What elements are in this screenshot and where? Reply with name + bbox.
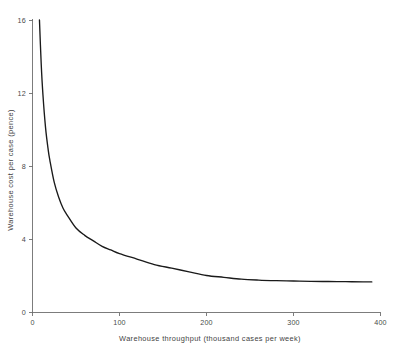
y-tick-label-16: 16 [18, 16, 26, 25]
y-tick-label-4: 4 [22, 235, 26, 244]
y-tick-labels: 16 12 8 4 0 [18, 16, 26, 317]
chart-canvas: 16 12 8 4 0 0 100 200 300 400 Warehouse … [0, 0, 405, 356]
y-tick-label-0: 0 [22, 308, 26, 317]
x-tick-label-0: 0 [30, 318, 34, 327]
axes-group [32, 19, 381, 313]
x-tick-label-100: 100 [113, 318, 126, 327]
x-tick-marks [33, 313, 381, 317]
x-tick-label-200: 200 [200, 318, 213, 327]
x-tick-labels: 0 100 200 300 400 [30, 318, 386, 327]
x-axis-title: Warehouse throughput (thousand cases per… [119, 334, 301, 343]
cost-curve [39, 20, 371, 282]
chart-figure: 16 12 8 4 0 0 100 200 300 400 Warehouse … [0, 0, 405, 356]
y-tick-marks [29, 20, 33, 312]
y-tick-label-8: 8 [22, 162, 26, 171]
y-tick-label-12: 12 [18, 89, 26, 98]
x-tick-label-400: 400 [374, 318, 387, 327]
y-axis-title: Warehouse cost per case (pence) [6, 109, 15, 231]
x-tick-label-300: 300 [287, 318, 300, 327]
